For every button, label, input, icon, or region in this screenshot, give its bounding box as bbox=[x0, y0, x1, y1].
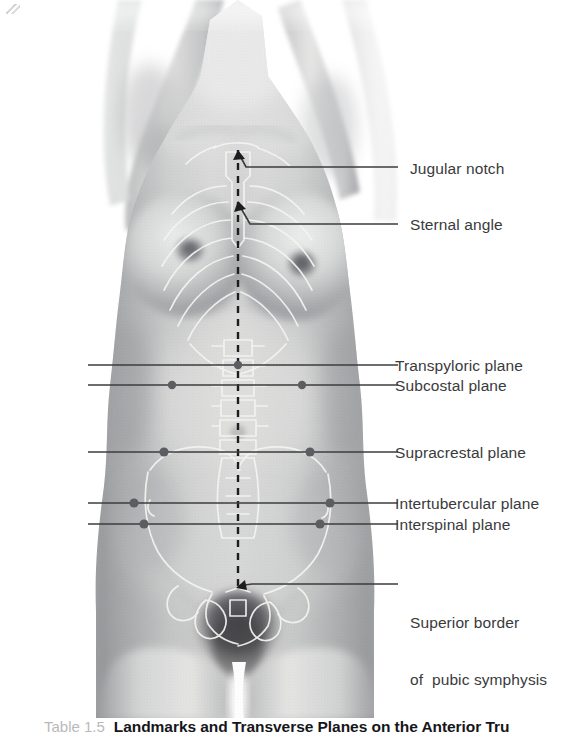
landmark-dot-subcostal-right bbox=[298, 381, 306, 389]
label-pubic-symphysis-line2: of pubic symphysis bbox=[410, 670, 547, 689]
landmark-dot-subcostal-left bbox=[168, 381, 176, 389]
label-pubic-symphysis-line1: Superior border bbox=[410, 613, 547, 632]
landmark-dot-interspinal-right bbox=[315, 519, 324, 528]
landmark-dot-intertubercular-right bbox=[325, 498, 334, 507]
landmark-dot-intertubercular-left bbox=[129, 498, 138, 507]
anatomy-figure bbox=[0, 0, 400, 720]
caption-number: Table 1.5 bbox=[44, 718, 105, 735]
landmark-dot-supracrestal-left bbox=[159, 447, 168, 456]
label-sternal-angle: Sternal angle bbox=[410, 215, 503, 234]
label-subcostal-plane: Subcostal plane bbox=[395, 376, 507, 395]
figure-page: Jugular notch Sternal angle Transpyloric… bbox=[0, 0, 562, 740]
label-supracrestal-plane: Supracrestal plane bbox=[395, 443, 526, 462]
caption-title: Landmarks and Transverse Planes on the A… bbox=[114, 718, 510, 735]
landmark-dot-transpyloric-mid bbox=[234, 361, 242, 369]
landmark-dot-supracrestal-right bbox=[305, 447, 314, 456]
label-pubic-symphysis: Superior border of pubic symphysis bbox=[410, 575, 547, 727]
body-photograph bbox=[0, 0, 400, 720]
figure-caption: Table 1.5 Landmarks and Transverse Plane… bbox=[0, 716, 562, 740]
label-transpyloric-plane: Transpyloric plane bbox=[395, 356, 523, 375]
landmark-dot-interspinal-left bbox=[139, 519, 148, 528]
label-interspinal-plane: Interspinal plane bbox=[395, 515, 510, 534]
torso-illustration bbox=[0, 0, 400, 720]
label-intertubercular-plane: Intertubercular plane bbox=[395, 494, 539, 513]
label-jugular-notch: Jugular notch bbox=[410, 159, 504, 178]
